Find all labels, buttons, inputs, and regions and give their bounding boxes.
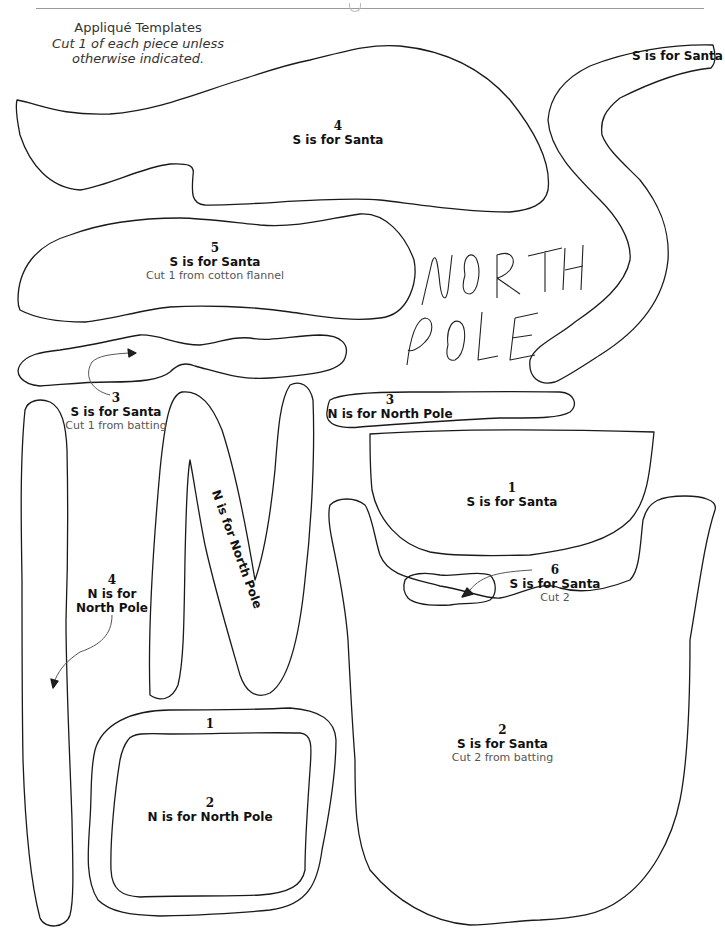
label-s1: 1 S is for Santa [462, 482, 562, 510]
piece-name: N is for North Pole [140, 811, 280, 825]
arrow-head-s6 [462, 588, 473, 597]
label-n4: 4 N is for North Pole [70, 574, 154, 615]
arrow-to-n4 [55, 615, 112, 680]
piece-number: 6 [505, 564, 605, 578]
template-s2-outline [329, 496, 716, 925]
template-s4-outline [16, 46, 548, 212]
piece-number: 1 [195, 718, 225, 732]
piece-number: 4 [288, 120, 388, 134]
piece-note: Cut 2 from batting [440, 752, 565, 765]
piece-name: S is for Santa [505, 578, 605, 592]
template-n4-outline [21, 400, 73, 926]
piece-number: 2 [140, 797, 280, 811]
label-n3: 3 N is for North Pole [320, 394, 460, 422]
piece-name: S is for Santa [632, 50, 722, 64]
arrow-to-s3 [89, 353, 130, 395]
handwriting-pole [407, 312, 538, 365]
piece-name: N is for North Pole [320, 408, 460, 422]
piece-number: 4 [70, 574, 154, 588]
piece-name: S is for Santa [462, 496, 562, 510]
piece-name: S is for Santa [440, 738, 565, 752]
label-n1: 1 [195, 718, 225, 732]
template-s-curve-outline [530, 45, 715, 383]
label-n2: 2 N is for North Pole [140, 797, 280, 825]
piece-number: 1 [462, 482, 562, 496]
label-s6: 6 S is for Santa Cut 2 [505, 564, 605, 604]
label-s5: 5 S is for Santa Cut 1 from cotton flann… [140, 242, 290, 282]
piece-number: 3 [320, 394, 460, 408]
piece-number: 5 [140, 242, 290, 256]
piece-name: S is for Santa [56, 406, 176, 420]
template-s3-outline [18, 335, 346, 386]
arrow-head-n4 [51, 679, 58, 688]
handwriting-north [422, 245, 583, 305]
piece-name: S is for Santa [140, 256, 290, 270]
arrow-head-s3 [128, 349, 136, 357]
piece-number: 2 [440, 724, 565, 738]
piece-name: S is for Santa [288, 134, 388, 148]
label-s4: 4 S is for Santa [288, 120, 388, 148]
piece-note: Cut 1 from cotton flannel [140, 270, 290, 283]
piece-number: 3 [56, 392, 176, 406]
label-s3: 3 S is for Santa Cut 1 from batting [56, 392, 176, 432]
piece-name-line2: North Pole [70, 602, 154, 616]
piece-name-line1: N is for [70, 588, 154, 602]
template-s6-outline [404, 573, 495, 605]
piece-note: Cut 1 from batting [56, 420, 176, 433]
piece-note: Cut 2 [505, 592, 605, 605]
label-s-curve: S is for Santa [632, 50, 722, 64]
label-s2: 2 S is for Santa Cut 2 from batting [440, 724, 565, 764]
